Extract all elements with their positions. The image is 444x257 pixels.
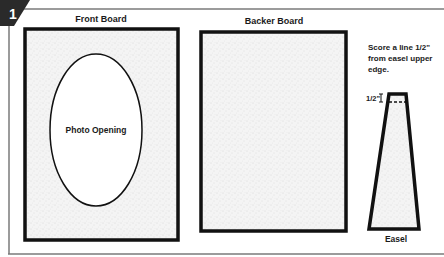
- step-number: 1: [9, 6, 17, 22]
- easel-instruction-line-3: edge.: [368, 65, 389, 74]
- backer-board-title: Backer Board: [245, 16, 304, 26]
- backer-board: [201, 32, 346, 231]
- easel-title: Easel: [385, 234, 407, 244]
- measure-label: 1/2": [366, 94, 380, 103]
- easel: [369, 94, 419, 229]
- easel-instruction-line-1: Score a line 1/2": [368, 43, 430, 52]
- diagram-canvas: 1 Front Board Photo Opening Backer Board…: [0, 0, 444, 257]
- easel-instruction-line-2: from easel upper: [368, 54, 432, 63]
- photo-opening-label: Photo Opening: [66, 125, 127, 135]
- step-badge: 1: [0, 0, 30, 26]
- front-board-title: Front Board: [75, 14, 127, 24]
